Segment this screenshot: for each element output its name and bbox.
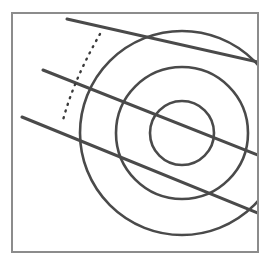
figure-root: Concentric circles intersected by three … [0,0,269,261]
figure-canvas: Concentric circles intersected by three … [0,0,269,261]
